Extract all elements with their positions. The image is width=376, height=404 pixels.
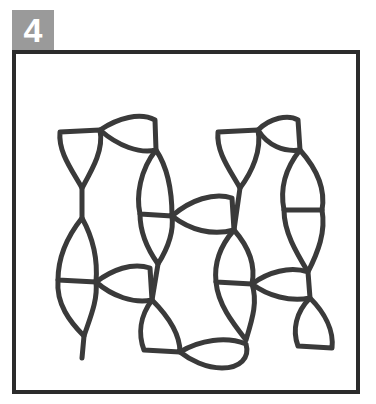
bottom-center-loop	[180, 340, 247, 368]
loop-network-drawing	[0, 0, 376, 404]
right-column-loops	[283, 150, 333, 348]
